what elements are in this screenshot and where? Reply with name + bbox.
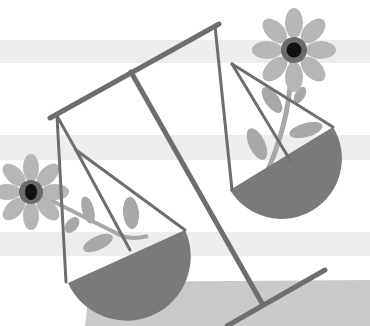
illustration	[0, 0, 370, 326]
flower-center	[287, 43, 302, 58]
